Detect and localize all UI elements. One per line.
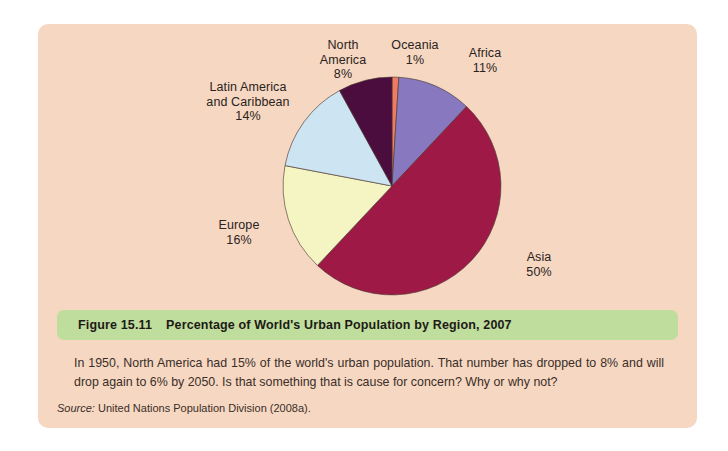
pie-label-latin-america: Latin America and Caribbean 14% — [186, 80, 310, 124]
source-label: Source: — [57, 402, 95, 414]
pie-label-asia: Asia 50% — [504, 250, 574, 279]
source-text: United Nations Population Division (2008… — [98, 402, 311, 414]
pie-label-north-america: North America 8% — [300, 38, 386, 82]
figure-body-text: In 1950, North America had 15% of the wo… — [74, 354, 664, 392]
pie-label-europe: Europe 16% — [196, 218, 282, 247]
pie-label-oceania: Oceania 1% — [382, 38, 448, 67]
figure-number: Figure 15.11 — [78, 318, 152, 332]
figure-title: Percentage of World's Urban Population b… — [166, 318, 512, 332]
figure-caption-bar: Figure 15.11Percentage of World's Urban … — [57, 310, 678, 340]
figure-source: Source: United Nations Population Divisi… — [57, 402, 311, 414]
figure-panel: North America 8% Oceania 1% Africa 11% L… — [38, 24, 697, 428]
pie-chart-graphic — [392, 186, 393, 187]
pie-slices — [283, 77, 501, 295]
figure-caption-text: Figure 15.11Percentage of World's Urban … — [57, 318, 512, 332]
pie-label-africa: Africa 11% — [452, 46, 518, 75]
figure-page: North America 8% Oceania 1% Africa 11% L… — [0, 0, 728, 451]
pie-chart: North America 8% Oceania 1% Africa 11% L… — [38, 24, 697, 310]
